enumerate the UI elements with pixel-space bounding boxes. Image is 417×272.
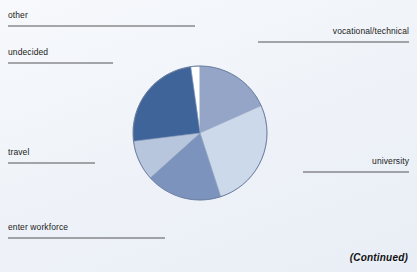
callout-label-vocational-technical: vocational/technical bbox=[333, 26, 409, 36]
pie-slice-undecided[interactable] bbox=[133, 67, 200, 142]
callout-label-other: other bbox=[8, 10, 28, 20]
callout-label-travel: travel bbox=[8, 147, 29, 157]
pie-slices bbox=[133, 66, 267, 200]
continued-note: (Continued) bbox=[350, 252, 408, 263]
callout-label-undecided: undecided bbox=[8, 47, 48, 57]
callout-label-university: university bbox=[372, 156, 409, 166]
figure-panel: other undecided travel enter workforce v… bbox=[0, 0, 417, 272]
callout-label-enter-workforce: enter workforce bbox=[8, 222, 68, 232]
